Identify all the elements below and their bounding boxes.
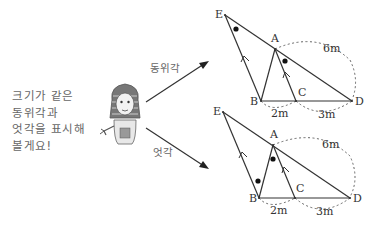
diagram-bottom: E A B C D 6m 2m 3m bbox=[213, 105, 362, 218]
point-E-bottom: E bbox=[213, 105, 221, 118]
measure-AD-bottom: 6m bbox=[322, 138, 340, 151]
point-B-top: B bbox=[250, 95, 258, 108]
diagram-top: E A B C D 6m 2m 3m bbox=[215, 8, 364, 121]
point-E-top: E bbox=[215, 8, 223, 21]
measure-AD-top: 6m bbox=[323, 42, 341, 55]
measure-BC-bottom: 2m bbox=[270, 204, 288, 217]
measure-CD-top: 3m bbox=[318, 108, 336, 121]
pharaoh-character-icon bbox=[100, 84, 140, 144]
point-D-top: D bbox=[355, 95, 364, 108]
point-A-top: A bbox=[270, 32, 280, 45]
point-B-bottom: B bbox=[249, 192, 257, 205]
point-A-bottom: A bbox=[269, 128, 279, 141]
label-corresponding-angle: 동위각 bbox=[150, 62, 180, 74]
label-alternate-angle: 엇각 bbox=[153, 146, 173, 158]
point-D-bottom: D bbox=[353, 192, 362, 205]
point-C-bottom: C bbox=[296, 182, 304, 195]
measure-BC-top: 2m bbox=[271, 107, 289, 120]
measure-CD-bottom: 3m bbox=[316, 205, 334, 218]
point-C-top: C bbox=[298, 86, 306, 99]
diagram-canvas: 동위각 엇각 E A B C D 6m 2m 3m bbox=[0, 0, 379, 227]
